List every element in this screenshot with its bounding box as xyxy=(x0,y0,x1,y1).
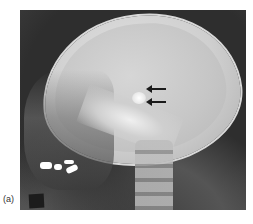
figure: (a) xyxy=(0,0,253,224)
skull-xray-image xyxy=(20,10,246,210)
panel-label: (a) xyxy=(3,194,14,204)
cervical-spine xyxy=(135,140,173,210)
film-marker xyxy=(29,194,45,209)
arrow-icon-lower xyxy=(150,101,166,103)
dental-fillings xyxy=(40,160,80,172)
arrow-icon-upper xyxy=(150,88,166,90)
calcification-lesion xyxy=(132,92,146,104)
